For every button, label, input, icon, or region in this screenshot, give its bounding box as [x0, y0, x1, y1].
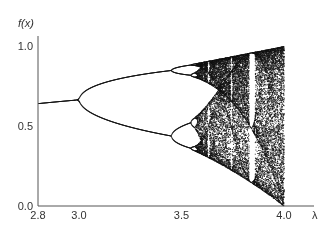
y-axis-title: f(x) [18, 17, 34, 29]
x-tick-label: 4.0 [276, 209, 291, 221]
bifurcation-chart: f(x) λ 2.83.03.54.0 0.00.51.0 [0, 0, 336, 233]
x-axis-title: λ [312, 209, 318, 221]
y-tick-label: 0.5 [18, 120, 33, 132]
chart-axes: f(x) λ 2.83.03.54.0 0.00.51.0 [0, 0, 336, 233]
x-tick-label: 3.5 [174, 209, 189, 221]
y-tick-label: 0.0 [18, 200, 33, 212]
x-tick-labels: 2.83.03.54.0 [30, 209, 291, 221]
y-tick-labels: 0.00.51.0 [18, 40, 33, 212]
x-tick-label: 3.0 [71, 209, 86, 221]
y-tick-label: 1.0 [18, 40, 33, 52]
